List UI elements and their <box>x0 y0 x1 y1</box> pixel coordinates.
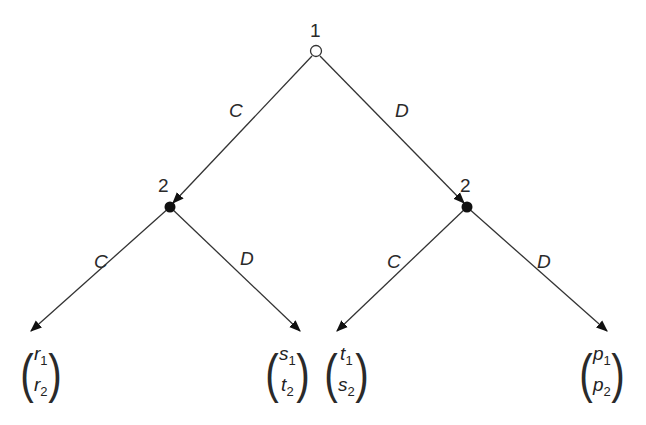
payoff-vector-cc: ( r1 r2 ) <box>18 342 64 404</box>
edge-label-left-left: C <box>94 251 108 273</box>
right-player-label: 2 <box>460 175 471 197</box>
payoff-vector-dd: ( p1 p2 ) <box>577 342 627 404</box>
edge-label-right-left: C <box>387 251 401 273</box>
root-player-label: 1 <box>310 20 321 42</box>
edge-root-to-left <box>173 56 312 203</box>
payoff-vector-dc: ( t1 s2 ) <box>322 342 371 404</box>
edge-root-to-right <box>320 56 464 203</box>
right-node-filled-icon <box>462 202 473 213</box>
root-node-hollow-icon <box>311 46 322 57</box>
edge-right-to-leaf3 <box>337 207 467 331</box>
left-player-label: 2 <box>158 175 169 197</box>
edge-label-root-right: D <box>395 100 409 122</box>
edge-left-to-leaf2 <box>170 207 300 331</box>
edge-label-root-left: C <box>229 100 243 122</box>
edge-label-left-right: D <box>240 248 254 270</box>
left-node-filled-icon <box>165 202 176 213</box>
edge-label-right-right: D <box>537 251 551 273</box>
payoff-vector-cd: ( s1 t2 ) <box>263 342 312 404</box>
